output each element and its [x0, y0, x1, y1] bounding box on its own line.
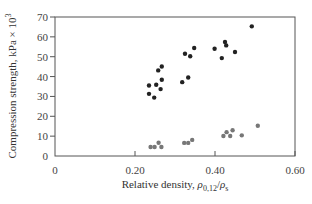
y-axis-label: Compression strength, kPa × 103	[4, 14, 18, 159]
data-point	[156, 68, 160, 72]
plot-border	[55, 17, 295, 156]
data-point	[188, 54, 192, 58]
y-tick-label: 10	[37, 130, 49, 142]
x-tick-label: 0.60	[285, 164, 305, 176]
data-point	[212, 47, 216, 51]
x-tick-label: 0.40	[205, 164, 225, 176]
data-point	[147, 92, 151, 96]
x-tick-label: 0.20	[125, 164, 145, 176]
data-point	[228, 134, 232, 138]
data-point	[221, 134, 225, 138]
y-axis-ticks: 010203040506070	[37, 11, 55, 162]
data-point	[186, 75, 190, 79]
data-point	[152, 145, 156, 149]
data-points	[147, 24, 260, 149]
y-tick-label: 0	[43, 150, 49, 162]
data-point	[154, 83, 158, 87]
data-point	[190, 138, 194, 142]
data-point	[148, 145, 152, 149]
y-tick-label: 30	[37, 90, 49, 102]
x-tick-label: 0	[52, 164, 58, 176]
y-tick-label: 20	[37, 110, 49, 122]
data-point	[147, 83, 151, 87]
plot-frame	[55, 17, 295, 156]
data-point	[220, 56, 224, 60]
data-point	[160, 64, 164, 68]
data-point	[240, 133, 244, 137]
data-point	[233, 50, 237, 54]
y-tick-label: 40	[37, 71, 49, 83]
data-point	[160, 78, 164, 82]
y-tick-label: 70	[37, 11, 49, 23]
data-point	[250, 24, 254, 28]
data-point	[256, 124, 260, 128]
y-tick-label: 60	[37, 31, 49, 43]
x-axis-label: Relative density, ρ0,12/ρs	[122, 178, 229, 193]
data-point	[224, 43, 228, 47]
data-point	[192, 46, 196, 50]
data-point	[182, 141, 186, 145]
data-point	[230, 128, 234, 132]
data-point	[152, 95, 156, 99]
x-axis-ticks: 00.200.400.60	[52, 151, 305, 176]
data-point	[224, 130, 228, 134]
data-point	[159, 145, 163, 149]
data-point	[186, 141, 190, 145]
data-point	[158, 87, 162, 91]
data-point	[156, 140, 160, 144]
y-tick-label: 50	[37, 51, 49, 63]
scatter-chart: 010203040506070 00.200.400.60 Compressio…	[0, 0, 312, 204]
data-point	[180, 80, 184, 84]
data-point	[183, 52, 187, 56]
